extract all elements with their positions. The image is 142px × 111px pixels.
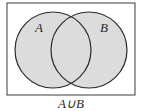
set-a-label: A [34, 20, 43, 35]
union-shading [15, 12, 127, 88]
diagram-caption: A∪B [57, 96, 84, 111]
set-b-label: B [100, 20, 108, 35]
venn-diagram: A B A∪B [0, 0, 142, 111]
